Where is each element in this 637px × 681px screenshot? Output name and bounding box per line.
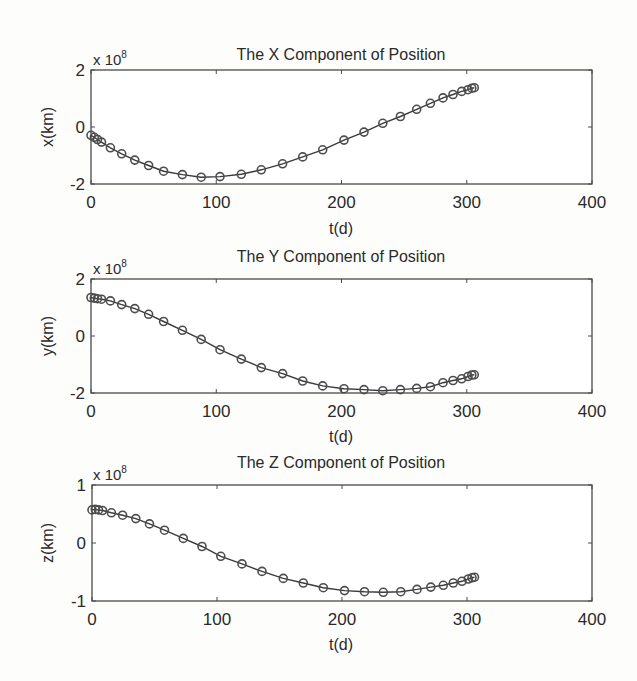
y-multiplier: x 108 bbox=[93, 258, 127, 277]
y-multiplier-base: x 10 bbox=[93, 51, 121, 68]
x-tick-label: 100 bbox=[202, 402, 230, 421]
y-multiplier-base: x 10 bbox=[93, 466, 121, 483]
y-tick-label: 0 bbox=[76, 118, 85, 137]
x-tick-label: 400 bbox=[578, 610, 606, 629]
figure: The X Component of Position x(km) t(d) x… bbox=[0, 0, 637, 681]
subplot-z-component: The Z Component of Position z(km) t(d) x… bbox=[39, 454, 606, 653]
y-multiplier-exponent: 8 bbox=[121, 464, 127, 475]
subplot-x-component: The X Component of Position x(km) t(d) x… bbox=[39, 46, 606, 237]
axes-frame bbox=[91, 279, 592, 393]
y-multiplier-exponent: 8 bbox=[121, 49, 127, 60]
y-tick-label: -2 bbox=[70, 384, 85, 403]
x-axis-label: t(d) bbox=[329, 220, 353, 237]
y-tick-label: -1 bbox=[71, 592, 86, 611]
y-multiplier: x 108 bbox=[93, 464, 127, 483]
x-axis-label: t(d) bbox=[329, 428, 353, 445]
x-tick-label: 0 bbox=[87, 610, 96, 629]
subplot-title: The Y Component of Position bbox=[237, 248, 445, 265]
x-axis-label: t(d) bbox=[329, 636, 353, 653]
y-tick-label: 2 bbox=[76, 270, 85, 289]
subplot-title: The Z Component of Position bbox=[237, 454, 445, 471]
x-tick-label: 0 bbox=[86, 402, 95, 421]
y-axis-label: x(km) bbox=[39, 107, 56, 147]
y-axis-label: y(km) bbox=[39, 316, 56, 356]
x-tick-label: 300 bbox=[453, 402, 481, 421]
x-tick-label: 400 bbox=[578, 193, 606, 212]
x-tick-label: 0 bbox=[86, 193, 95, 212]
x-tick-label: 200 bbox=[327, 402, 355, 421]
subplot-y-component: The Y Component of Position y(km) t(d) x… bbox=[39, 248, 606, 445]
y-axis-label: z(km) bbox=[39, 523, 56, 563]
y-tick-label: 0 bbox=[77, 534, 86, 553]
x-tick-label: 300 bbox=[453, 610, 481, 629]
x-tick-label: 400 bbox=[578, 402, 606, 421]
axes-frame bbox=[91, 70, 592, 184]
y-tick-label: 0 bbox=[76, 327, 85, 346]
axes-frame bbox=[92, 485, 592, 601]
x-tick-label: 100 bbox=[203, 610, 231, 629]
y-tick-label: 2 bbox=[76, 61, 85, 80]
x-tick-label: 200 bbox=[327, 193, 355, 212]
y-tick-label: 1 bbox=[77, 476, 86, 495]
x-tick-label: 100 bbox=[202, 193, 230, 212]
subplot-title: The X Component of Position bbox=[236, 46, 445, 63]
y-multiplier: x 108 bbox=[93, 49, 127, 68]
x-tick-label: 300 bbox=[453, 193, 481, 212]
y-multiplier-exponent: 8 bbox=[121, 258, 127, 269]
x-tick-label: 200 bbox=[328, 610, 356, 629]
y-multiplier-base: x 10 bbox=[93, 260, 121, 277]
y-tick-label: -2 bbox=[70, 175, 85, 194]
